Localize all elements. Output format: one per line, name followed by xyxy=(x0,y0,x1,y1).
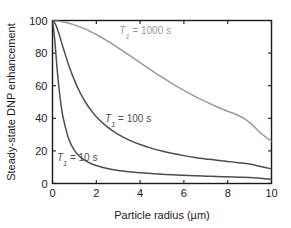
x-tick-label: 2 xyxy=(93,187,99,199)
y-tick-label: 0 xyxy=(41,178,47,190)
y-tick-label: 60 xyxy=(35,80,47,92)
x-tick-label: 0 xyxy=(49,187,55,199)
y-axis-title: Steady-state DNP enhancement xyxy=(5,23,17,181)
x-tick-label: 10 xyxy=(265,187,277,199)
x-tick-label: 4 xyxy=(137,187,143,199)
y-tick-label: 20 xyxy=(35,145,47,157)
x-axis-title: Particle radius (µm) xyxy=(114,209,210,221)
y-tick-label: 100 xyxy=(29,15,47,27)
x-tick-label: 6 xyxy=(181,187,187,199)
figure-container: 0246810 020406080100 T1 = 1000 sT1 = 100… xyxy=(0,0,291,228)
y-tick-label: 80 xyxy=(35,47,47,59)
dnp-enhancement-line-chart: 0246810 020406080100 T1 = 1000 sT1 = 100… xyxy=(0,0,291,228)
x-tick-label: 8 xyxy=(225,187,231,199)
y-tick-label: 40 xyxy=(35,112,47,124)
